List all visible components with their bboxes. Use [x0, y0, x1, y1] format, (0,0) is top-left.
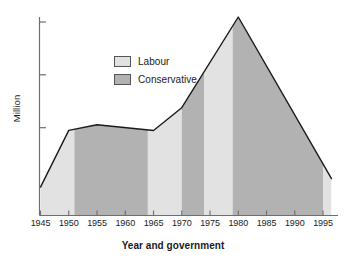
- party-band-labour: [148, 15, 182, 216]
- y-axis-ticks: [40, 22, 47, 128]
- party-band-conservative: [182, 15, 205, 216]
- x-tick-label-1945: 1945: [26, 218, 56, 228]
- x-tick-label-1990: 1990: [280, 218, 310, 228]
- legend-item-labour: Labour: [114, 56, 169, 67]
- x-tick-label-1980: 1980: [223, 218, 253, 228]
- party-band-conservative: [233, 15, 323, 216]
- party-band-labour: [204, 15, 232, 216]
- x-tick-label-1995: 1995: [308, 218, 338, 228]
- x-tick-label-1985: 1985: [252, 218, 282, 228]
- legend-label-conservative: Conservative: [138, 74, 197, 85]
- y-axis-title: Million: [11, 79, 22, 139]
- x-tick-label-1950: 1950: [54, 218, 84, 228]
- party-band-labour: [323, 15, 331, 216]
- x-tick-label-1970: 1970: [167, 218, 197, 228]
- legend-label-labour: Labour: [138, 56, 169, 67]
- x-tick-label-1965: 1965: [139, 218, 169, 228]
- legend-swatch-labour: [114, 56, 131, 67]
- trade-union-membership-chart: Million Year and government 194519501955…: [0, 0, 346, 265]
- x-tick-label-1975: 1975: [195, 218, 225, 228]
- x-axis-title: Year and government: [0, 240, 346, 251]
- party-band-labour: [41, 15, 75, 216]
- legend-swatch-conservative: [114, 74, 131, 85]
- legend-item-conservative: Conservative: [114, 74, 197, 85]
- x-tick-label-1955: 1955: [82, 218, 112, 228]
- x-tick-label-1960: 1960: [110, 218, 140, 228]
- government-party-bands: [41, 15, 332, 216]
- party-band-conservative: [74, 15, 147, 216]
